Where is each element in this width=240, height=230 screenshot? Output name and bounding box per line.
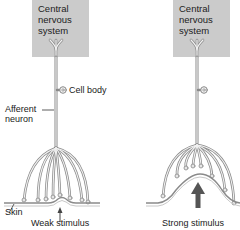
cell-body-left	[60, 87, 67, 94]
cell-body-label: Cell body	[69, 85, 107, 95]
weak-stimulus-label: Weak stimulus	[31, 218, 89, 228]
cns-label-line: nervous	[38, 14, 72, 25]
cns-label-line: nervous	[179, 14, 213, 25]
afferent-neuron-label-line2: neuron	[5, 114, 33, 124]
cns-label-line: system	[179, 25, 213, 36]
cns-label-line: Central	[179, 3, 213, 14]
cns-label-line: system	[38, 25, 72, 36]
cns-label-left: Central nervous system	[38, 3, 72, 36]
cns-label-line: Central	[38, 3, 72, 14]
strong-stimulus-label: Strong stimulus	[162, 218, 224, 228]
skin-label: Skin	[5, 207, 23, 217]
cell-body-right	[201, 87, 208, 94]
afferent-neuron-label-line1: Afferent	[5, 104, 36, 114]
strong-stimulus-arrow	[191, 182, 205, 208]
cns-label-right: Central nervous system	[179, 3, 213, 36]
afferent-neuron-right	[161, 40, 236, 205]
